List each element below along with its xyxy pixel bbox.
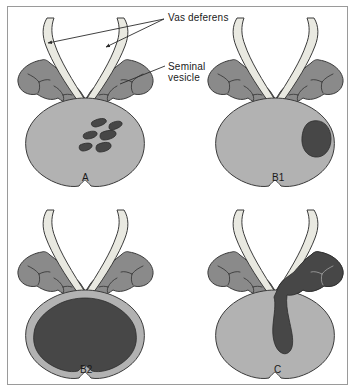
label-seminal-vesicle-line2: vesicle xyxy=(168,72,200,83)
panel-B1-graphic xyxy=(208,18,343,187)
panel-label-B1: B1 xyxy=(272,172,285,183)
panel-A-graphic xyxy=(18,18,153,187)
figure-container: .sv { fill:#8a8a8a; stroke:#3b3b3b; stro… xyxy=(0,0,355,392)
panel-B1-tumor-nodule xyxy=(302,121,331,157)
panel-label-A: A xyxy=(82,172,89,183)
leader-line-vas-deferens-right xyxy=(106,19,164,47)
anatomy-illustration: .sv { fill:#8a8a8a; stroke:#3b3b3b; stro… xyxy=(0,0,355,392)
leader-line-vas-deferens-left xyxy=(48,19,164,43)
label-seminal-vesicle-line1: Seminal xyxy=(168,61,206,72)
panel-label-B2: B2 xyxy=(80,364,93,375)
panel-label-C: C xyxy=(274,364,281,375)
panel-C-graphic xyxy=(208,210,343,379)
label-vas-deferens: Vas deferens xyxy=(168,12,229,23)
panel-B2-graphic xyxy=(18,210,153,379)
